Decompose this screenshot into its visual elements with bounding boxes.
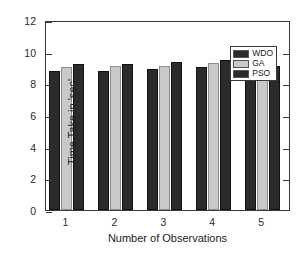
y-axis-title: Time Take in 'sec' (66, 42, 78, 202)
legend-swatch-wdo (233, 50, 249, 58)
x-tick-label: 1 (62, 216, 68, 228)
legend: WDO GA PSO (230, 46, 277, 81)
bar-wdo (147, 69, 158, 210)
legend-label-ga: GA (252, 59, 264, 68)
bar-wdo (98, 71, 109, 210)
legend-label-pso: PSO (252, 69, 270, 78)
bar-wdo (49, 71, 60, 210)
y-tick-mark (46, 212, 52, 213)
bar-ga (159, 66, 170, 210)
y-tick-label: 10 (24, 47, 36, 59)
plot-area: WDO GA PSO (45, 21, 290, 211)
bar-ga (208, 63, 219, 210)
x-tick-label: 5 (258, 216, 264, 228)
bar-ga (110, 66, 121, 210)
y-tick-label: 6 (30, 110, 36, 122)
bar-group (144, 22, 185, 210)
legend-item-wdo: WDO (233, 49, 273, 58)
x-tick-label: 2 (111, 216, 117, 228)
y-tick-label: 4 (30, 142, 36, 154)
legend-label-wdo: WDO (252, 49, 273, 58)
legend-swatch-ga (233, 60, 249, 68)
bar-pso (220, 60, 231, 210)
x-axis-title: Number of Observations (45, 232, 290, 244)
bar-wdo (245, 70, 256, 210)
y-tick-label: 8 (30, 78, 36, 90)
bar-pso (171, 62, 182, 210)
legend-item-ga: GA (233, 59, 273, 68)
x-tick-label: 4 (209, 216, 215, 228)
bar-ga (257, 63, 268, 210)
legend-swatch-pso (233, 70, 249, 78)
legend-item-pso: PSO (233, 69, 273, 78)
bar-chart-figure: 0 2 4 6 8 10 12 (0, 0, 308, 260)
y-tick-label: 12 (24, 15, 36, 27)
x-tick-label: 3 (160, 216, 166, 228)
bar-pso (269, 66, 280, 210)
y-tick-label: 0 (30, 205, 36, 217)
bar-group (193, 22, 234, 210)
bar-pso (122, 64, 133, 210)
y-tick-label: 2 (30, 173, 36, 185)
bar-group (95, 22, 136, 210)
bar-wdo (196, 67, 207, 210)
